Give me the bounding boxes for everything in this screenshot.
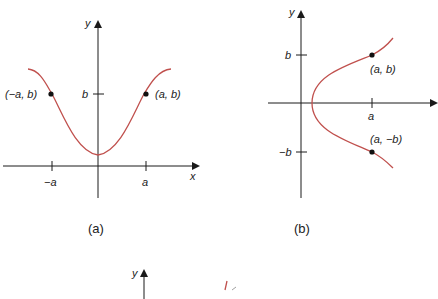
figure-a: y x −a a b (−a, b) (a, b) (a) [3,17,198,236]
caption-b: (b) [294,221,310,236]
figure-b: y b −b a (a, b) (a, −b) (b) [268,6,436,236]
tick-label-b: b [285,49,291,61]
tick-label-a: a [368,110,374,122]
tick-label-neg-b: −b [279,146,292,158]
bell-curve [28,69,171,155]
point-a-neg-b [369,149,374,154]
x-axis-label: x [189,170,196,182]
point-label-neg-a-b: (−a, b) [5,88,37,100]
tick-label-neg-a: −a [44,176,57,188]
y-axis-label: y [288,6,296,18]
point-label-a-neg-b: (a, −b) [370,133,402,145]
tick-label-a: a [142,176,148,188]
curve-fragment [225,281,227,290]
point-a-b [369,52,374,57]
y-axis-label: y [131,267,139,279]
point-neg-a-b [48,91,53,96]
figure-c: y [131,267,236,299]
tick-label-b: b [82,88,88,100]
point-label-a-b: (a, b) [370,63,396,75]
arrow-fragment [232,287,236,290]
point-a-b [143,91,148,96]
point-label-a-b: (a, b) [155,88,181,100]
caption-a: (a) [88,221,104,236]
y-axis-label: y [84,17,92,29]
figure-canvas: y x −a a b (−a, b) (a, b) (a) y b −b a (… [0,0,438,299]
